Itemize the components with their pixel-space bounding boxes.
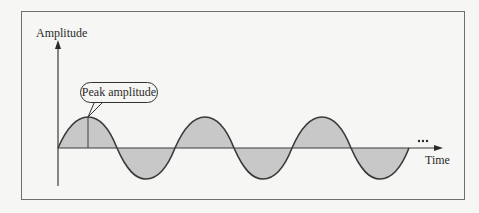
y-axis-arrow-icon [55,40,61,49]
continuation-dot [422,140,424,142]
peak-amplitude-callout: Peak amplitude [80,82,158,103]
x-axis-label: Time [425,153,450,168]
y-axis-label: Amplitude [36,26,87,41]
callout-tail [88,101,104,117]
continuation-dot [418,140,420,142]
continuation-dot [426,140,428,142]
x-axis-arrow-icon [434,145,443,151]
